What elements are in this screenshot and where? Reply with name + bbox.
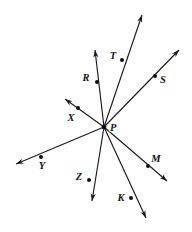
point-label-r: R [81, 72, 89, 83]
geometry-figure: RTSXYZKMP [0, 0, 192, 232]
vertex-dot-p [102, 125, 107, 130]
ray-PR [95, 50, 104, 127]
point-dot-k [129, 196, 133, 200]
ray-PZ [92, 127, 104, 201]
point-dot-y [39, 155, 43, 159]
ray-PK [104, 127, 146, 218]
vertex-label-p: P [110, 122, 117, 133]
point-label-y: Y [39, 160, 47, 171]
point-label-s: S [160, 74, 166, 85]
rays-group [16, 15, 179, 218]
ray-PT [104, 15, 142, 127]
point-dot-t [120, 58, 124, 62]
point-label-x: X [66, 112, 75, 123]
point-dot-s [153, 74, 157, 78]
point-dot-r [95, 80, 99, 84]
rays-diagram-canvas: RTSXYZKMP [0, 0, 192, 232]
point-dot-m [146, 164, 150, 168]
arrowhead-x-icon [65, 99, 73, 105]
point-dot-x [76, 106, 80, 110]
ray-PS [104, 50, 179, 127]
point-label-t: T [110, 50, 117, 61]
point-label-m: M [150, 153, 161, 164]
point-label-z: Z [75, 171, 83, 182]
point-label-k: K [116, 192, 125, 203]
ray-PY [16, 127, 104, 164]
point-dot-z [87, 178, 91, 182]
